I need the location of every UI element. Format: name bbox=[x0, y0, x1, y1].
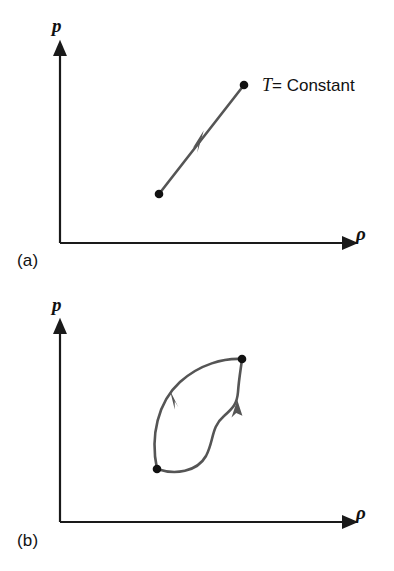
isotherm-text: = Constant bbox=[272, 76, 355, 95]
x-axis-label-a: ρ bbox=[356, 224, 366, 243]
process-line-a bbox=[159, 85, 244, 194]
cycle-outer-path-b bbox=[155, 359, 242, 469]
panel-b-graphic bbox=[0, 290, 394, 571]
cycle-inner-path-b bbox=[157, 359, 242, 472]
process-end-marker-a bbox=[240, 81, 249, 90]
x-axis-label-b: ρ bbox=[356, 503, 366, 522]
panel-caption-a: (a) bbox=[17, 252, 38, 269]
cycle-end-marker-b bbox=[238, 355, 247, 364]
process-start-marker-a bbox=[155, 190, 164, 199]
cycle-start-marker-b bbox=[153, 465, 162, 474]
isotherm-annotation-a: T= Constant bbox=[262, 76, 355, 94]
panel-b: p ρ (b) bbox=[0, 290, 394, 571]
panel-a: p ρ T= Constant (a) bbox=[0, 0, 394, 290]
isotherm-symbol: T bbox=[262, 75, 272, 95]
figure-container: p ρ T= Constant (a) bbox=[0, 0, 394, 571]
y-axis-label-b: p bbox=[52, 295, 62, 314]
y-axis-label-a: p bbox=[52, 16, 62, 35]
panel-a-graphic bbox=[0, 0, 394, 290]
panel-caption-b: (b) bbox=[17, 532, 38, 549]
